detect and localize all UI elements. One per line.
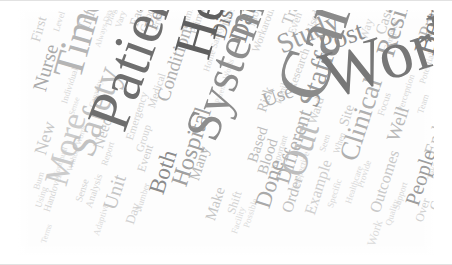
cloud-word: Team bbox=[416, 93, 430, 114]
cloud-word: First bbox=[30, 15, 49, 43]
figure-top-border bbox=[0, 0, 452, 1]
cloud-word: Well bbox=[384, 104, 412, 143]
word-cloud-canvas: WorkCarePatientHealthSystemTimeSafetyMor… bbox=[18, 10, 434, 255]
cloud-word: Day bbox=[124, 201, 142, 225]
cloud-word: Provide bbox=[356, 159, 373, 188]
cloud-word: Quality bbox=[384, 198, 400, 226]
cloud-word: Specific bbox=[326, 178, 343, 209]
word-cloud-figure: WorkCarePatientHealthSystemTimeSafetyMor… bbox=[0, 0, 452, 265]
cloud-word: Make bbox=[204, 186, 228, 223]
cloud-word: Unit bbox=[100, 172, 128, 212]
cloud-word: Terms bbox=[40, 223, 53, 244]
cloud-word: Work bbox=[366, 219, 385, 247]
